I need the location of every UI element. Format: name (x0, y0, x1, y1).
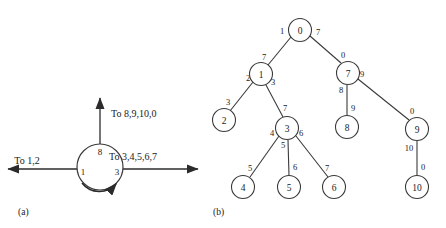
tree-node: 10 (406, 176, 429, 199)
tree-edge-label: 7 (316, 27, 320, 37)
tree-node-label: 4 (241, 183, 246, 193)
tree-node-label: 1 (259, 70, 264, 80)
tree-node: 1 (250, 63, 273, 86)
tree-edge: 45 (248, 128, 279, 177)
ring-port-left-label: 1 (81, 167, 86, 177)
tree-edge-label: 9 (360, 69, 364, 79)
tree-node-label: 7 (346, 69, 351, 79)
tree-node: 5 (278, 176, 301, 199)
tree-edge-label: 6 (293, 162, 297, 172)
tree-node-label: 6 (332, 183, 337, 193)
panel-caption-b: (b) (213, 207, 224, 218)
tree-node: 3 (276, 117, 299, 140)
tree-edge-line (310, 36, 341, 63)
ring-port-right-label: 3 (115, 167, 120, 177)
tree-node-label: 10 (412, 183, 422, 193)
tree-edge: 37 (266, 77, 287, 117)
tree-edge: 67 (296, 128, 329, 177)
tree-node: 7 (337, 62, 360, 85)
tree-node: 9 (406, 118, 429, 141)
tree-edge-label: 0 (341, 50, 345, 60)
tree-edge: 17 (262, 26, 291, 65)
tree-node-label: 2 (222, 116, 227, 126)
tree-edge-label: 3 (226, 97, 230, 107)
tree-edge: 23 (226, 73, 253, 111)
tree-node-label: 3 (285, 124, 290, 134)
tree-edge-line (230, 82, 253, 111)
tree-edge-line (358, 79, 409, 120)
ring-arrow-right-label: To 3,4,5,6,7 (109, 151, 157, 162)
panel-caption-a: (a) (18, 207, 29, 218)
tree-node: 8 (336, 116, 359, 139)
tree-edge: 56 (281, 140, 297, 176)
ring-arrow-left-label: To 1,2 (14, 155, 39, 166)
tree-edges-group: 177023378990455667100 (226, 26, 425, 177)
tree-edge-line (250, 136, 279, 177)
tree-edge-label: 4 (270, 128, 275, 138)
tree-edge: 90 (358, 69, 414, 120)
figure-container: To 1,2 To 3,4,5,6,7 To 8,9,10,0 1 3 8 17… (0, 0, 446, 228)
tree-edge-line (268, 37, 291, 65)
tree-edge-label: 9 (351, 103, 355, 113)
tree-edge-label: 7 (283, 103, 287, 113)
tree-edge: 70 (310, 27, 345, 63)
tree-edge-label: 5 (248, 163, 252, 173)
tree-node: 2 (213, 109, 236, 132)
tree-node-label: 5 (287, 183, 292, 193)
tree-edge: 100 (405, 141, 425, 176)
ring-arrow-left: To 1,2 (8, 155, 77, 170)
tree-edge-label: 1 (280, 26, 284, 36)
tree-node: 6 (323, 176, 346, 199)
ring-arrow-top: To 8,9,10,0 (100, 98, 156, 144)
tree-edge-line (296, 136, 328, 177)
tree-edge: 89 (339, 85, 355, 115)
tree-node-label: 0 (298, 26, 303, 36)
tree-edge-line (266, 85, 283, 117)
tree-node: 4 (232, 176, 255, 199)
panel-b-tree-diagram: 177023378990455667100 017238945610 (213, 19, 429, 199)
tree-edge-label: 7 (325, 163, 329, 173)
tree-edge-label: 10 (405, 143, 414, 153)
tree-edge-line (288, 140, 289, 176)
tree-edge-label: 8 (339, 85, 343, 95)
figure-svg: To 1,2 To 3,4,5,6,7 To 8,9,10,0 1 3 8 17… (0, 0, 446, 228)
tree-node: 0 (289, 19, 312, 42)
tree-node-label: 8 (345, 123, 350, 133)
ring-port-top-label: 8 (98, 147, 103, 157)
tree-edge-label: 0 (421, 162, 425, 172)
tree-edge-label: 5 (281, 140, 285, 150)
panel-a-ring-diagram: To 1,2 To 3,4,5,6,7 To 8,9,10,0 1 3 8 (8, 98, 198, 192)
tree-edge-label: 7 (262, 52, 266, 62)
tree-node-label: 9 (415, 125, 420, 135)
ring-arrow-top-label: To 8,9,10,0 (111, 108, 156, 119)
tree-edge-label: 6 (299, 128, 303, 138)
tree-edge-label: 0 (410, 106, 414, 116)
